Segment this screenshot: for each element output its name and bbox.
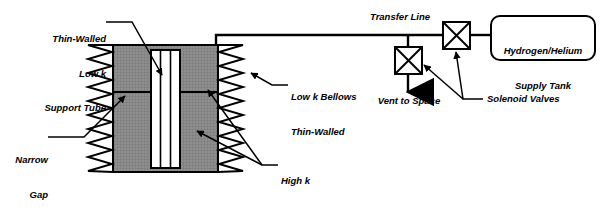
label-support-tube-line1: Thin-Walled <box>6 33 106 45</box>
label-structure-material-line1: High k <box>281 175 371 187</box>
label-supply-tank: Hydrogen/Helium Supply Tank <box>493 22 593 114</box>
label-transfer-line: Transfer Line <box>370 11 480 23</box>
supply-solenoid-valve[interactable] <box>443 22 470 49</box>
label-support-tube: Thin-Walled Low k Support Tube <box>6 10 106 137</box>
label-narrow-gap-line2: Gap <box>0 189 48 201</box>
label-supply-tank-line2: Supply Tank <box>493 80 593 92</box>
label-narrow-gap: Narrow Gap <box>0 131 48 212</box>
label-structure-material-line2: Structure <box>281 210 371 213</box>
leader-solenoid-valves <box>424 52 483 99</box>
diagram-canvas: Thin-Walled Low k Support Tube Narrow Ga… <box>0 0 607 212</box>
label-support-tube-line3: Support Tube <box>6 102 106 114</box>
label-narrow-gap-line1: Narrow <box>0 154 48 166</box>
label-vent-to-space: Vent to Space <box>363 95 455 107</box>
label-structure-material: High k Structure Material <box>281 152 371 212</box>
label-support-tube-line2: Low k <box>6 68 106 80</box>
narrow-gap-channel <box>151 50 180 168</box>
label-supply-tank-line1: Hydrogen/Helium <box>493 45 593 57</box>
label-bellows-line2: Thin-Walled <box>291 126 401 138</box>
label-bellows: Low k Bellows Thin-Walled <box>291 68 401 160</box>
leader-bellows <box>251 73 288 85</box>
